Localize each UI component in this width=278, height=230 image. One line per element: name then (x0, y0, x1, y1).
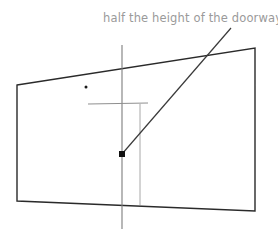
sketch-canvas: half the height of the doorway (0, 0, 278, 230)
reference-dot (85, 86, 88, 89)
midpoint-square-marker (119, 151, 125, 157)
annotation-label: half the height of the doorway (103, 11, 278, 25)
annotation-leader-line (122, 28, 231, 154)
doorway-sketch-diagram (0, 0, 278, 230)
doorway-outline (17, 48, 255, 211)
half-height-tick-line (88, 103, 148, 104)
